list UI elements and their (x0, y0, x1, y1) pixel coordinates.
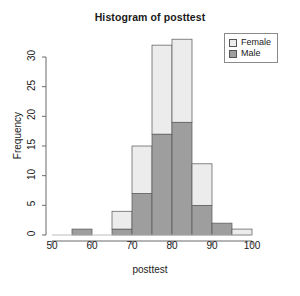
bar-female (172, 39, 192, 122)
bar-male (152, 134, 172, 235)
female-swatch-icon (229, 39, 237, 47)
x-tick-label-100: 100 (237, 240, 267, 251)
y-tick-label-0: 0 (26, 223, 37, 245)
y-tick-label-25: 25 (26, 74, 37, 96)
bar-female (232, 229, 252, 235)
bar-female (132, 146, 152, 193)
y-tick-label-15: 15 (26, 134, 37, 156)
x-tick-label-50: 50 (37, 240, 67, 251)
x-tick-label-70: 70 (117, 240, 147, 251)
bar-male (112, 229, 132, 235)
x-tick-label-80: 80 (157, 240, 187, 251)
y-tick-label-5: 5 (26, 193, 37, 215)
bar-male (192, 205, 212, 235)
male-swatch-icon (229, 50, 237, 58)
y-axis-label: Frequency (12, 81, 23, 191)
bar-female (152, 45, 172, 134)
legend: Female Male (224, 33, 278, 63)
x-axis-label: posttest (0, 264, 300, 275)
legend-label-male: Male (241, 48, 261, 59)
x-tick-label-90: 90 (197, 240, 227, 251)
bar-male (72, 229, 92, 235)
x-tick-label-60: 60 (77, 240, 107, 251)
y-tick-label-20: 20 (26, 104, 37, 126)
bar-male (132, 193, 152, 235)
bar-group (72, 39, 252, 235)
bar-female (192, 164, 212, 206)
y-tick-label-10: 10 (26, 163, 37, 185)
bar-male (212, 223, 232, 235)
bar-male (172, 122, 192, 235)
legend-item-female: Female (229, 37, 271, 48)
bar-female (112, 211, 132, 229)
legend-item-male: Male (229, 48, 271, 59)
y-tick-label-30: 30 (26, 45, 37, 67)
legend-label-female: Female (241, 37, 271, 48)
